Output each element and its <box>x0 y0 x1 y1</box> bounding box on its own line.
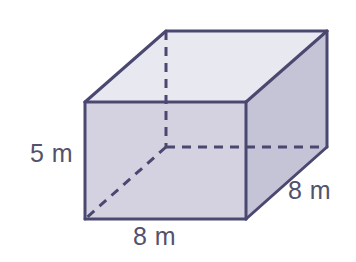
prism-drawing <box>0 0 356 262</box>
dimension-label-depth: 8 m <box>288 178 331 203</box>
dimension-label-height: 5 m <box>30 141 73 166</box>
prism-figure: 5 m 8 m 8 m <box>0 0 356 262</box>
dimension-label-width: 8 m <box>133 224 176 249</box>
